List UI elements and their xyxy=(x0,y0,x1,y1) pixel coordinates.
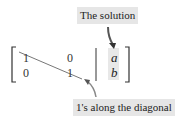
solution-arrowhead xyxy=(109,43,116,49)
left-bracket xyxy=(12,47,16,82)
solution-arrow xyxy=(108,27,113,45)
diagonal-label: 1's along the diagonal xyxy=(73,99,175,116)
diagonal-arrowhead xyxy=(84,79,90,85)
matrix-r1-rhs: a xyxy=(111,51,118,65)
matrix-r2-c2: 1 xyxy=(67,66,73,80)
right-bracket xyxy=(125,47,129,82)
matrix-r2-rhs: b xyxy=(111,66,118,80)
matrix-r1-c2: 0 xyxy=(67,51,73,65)
matrix-r1-c1: 1 xyxy=(23,51,29,65)
matrix-r2-c1: 0 xyxy=(23,66,29,80)
